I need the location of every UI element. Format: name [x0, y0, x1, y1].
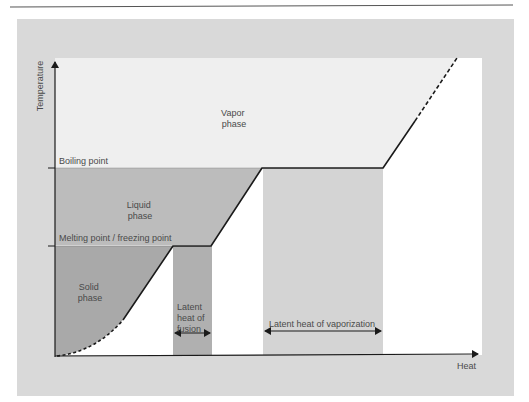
solid-phase-line-1: Solid [79, 282, 99, 292]
liquid-phase-line-1: Liquid [127, 200, 151, 210]
melting-point-label: Melting point / freezing point [59, 233, 172, 243]
boiling-point-label: Boiling point [59, 156, 109, 166]
vapor-phase-label: Vapor phase [221, 108, 247, 129]
solid-phase-label: Solid phase [78, 282, 103, 303]
vapor-phase-line-1: Vapor [221, 108, 244, 118]
heating-curve-diagram: Temperature Heat Boiling point Melting p… [0, 0, 529, 402]
solid-phase-line-2: phase [78, 293, 103, 303]
top-rule [10, 5, 513, 7]
fusion-label-line-3: fusion [177, 324, 201, 334]
y-axis-label: Temperature [35, 61, 45, 112]
vapor-phase-line-2: phase [222, 119, 247, 129]
fusion-label-line-2: heat of [177, 313, 205, 323]
x-axis-label: Heat [457, 361, 477, 371]
liquid-phase-label: Liquid phase [127, 200, 154, 221]
latent-heat-vaporization-label: Latent heat of vaporization [269, 319, 375, 329]
fusion-band [173, 246, 212, 355]
fusion-label-line-1: Latent [177, 302, 203, 312]
liquid-phase-line-2: phase [128, 211, 153, 221]
